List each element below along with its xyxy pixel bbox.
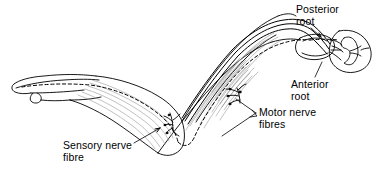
dorsal-root-ganglion: [296, 34, 335, 59]
anatomy-figure: Posterior root Anterior root Motor nerve…: [0, 0, 376, 187]
upper-arm-outline: [158, 14, 300, 153]
label-sensory-nerve-fibre: Sensory nerve fibre: [63, 140, 132, 163]
muscle-fibre-striations: [78, 33, 280, 149]
leader-to-anterior-root: [315, 62, 322, 77]
label-motor-nerve-fibres: Motor nerve fibres: [259, 107, 316, 130]
label-posterior-root: Posterior root: [296, 4, 339, 27]
grey-matter-butterfly: [341, 37, 361, 65]
label-anterior-root: Anterior root: [291, 79, 329, 102]
leader-to-motor-nerve-fibres: [222, 99, 257, 136]
motor-end-plate-upper-arm: [226, 84, 246, 105]
leader-to-posterior-root: [311, 28, 321, 37]
motor-end-plate-forearm: [164, 113, 180, 136]
